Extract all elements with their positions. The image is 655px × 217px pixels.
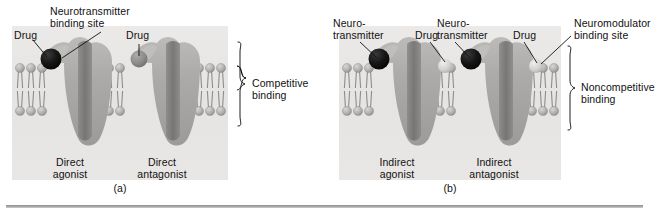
label-indirect-agonist: Indirect agonist [367,157,427,180]
panel-a: Drug Neurotransmitter binding site Drug … [0,0,325,196]
label-direct-antagonist: Direct antagonist [129,157,195,180]
ligand-neurotransmitter-antagonist [461,49,482,70]
ligand-drug-agonist [438,59,452,73]
panel-tag-a: (a) [90,182,150,194]
callout-neurotransmitter-binding-site: Neurotransmitter binding site [50,6,130,29]
callout-drug-right-b: Drug [513,30,536,42]
callout-neurotransmitter-left: Neuro- transmitter [333,18,384,41]
ligand-drug-antagonist [131,51,148,68]
panel-tag-b: (b) [420,182,480,194]
callout-drug-right: Drug [126,30,149,42]
label-indirect-antagonist: Indirect antagonist [459,157,529,180]
callout-drug-left-b: Drug [415,30,438,42]
label-competitive-binding: Competitive binding [252,78,309,101]
ligand-neurotransmitter-agonist [369,49,390,70]
ligand-drug-agonist [41,49,62,70]
callout-neurotransmitter-right: Neuro- transmitter [437,18,488,41]
lipid-bilayer-left [15,63,46,115]
callout-drug-left: Drug [14,30,37,42]
panel-b: Neuro- transmitter Drug Neuro- transmitt… [325,0,649,196]
figure-bottom-rule [6,205,643,208]
lipid-bilayer-left [342,63,373,115]
label-noncompetitive-binding: Noncompetitive binding [581,82,655,105]
ligand-drug-antagonist [529,59,543,73]
callout-neuromodulator-binding-site: Neuromodulator binding site [574,18,651,41]
label-direct-agonist: Direct agonist [40,157,100,180]
